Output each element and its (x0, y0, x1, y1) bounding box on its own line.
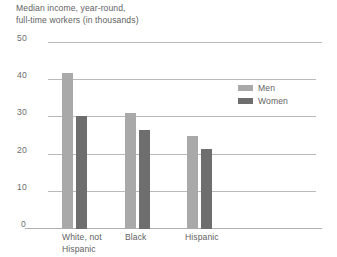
legend-swatch-women-icon (238, 98, 253, 104)
bar-women-hispanic (201, 149, 212, 229)
x-category-label-black: Black (125, 232, 147, 244)
legend-item-women: Women (238, 94, 288, 107)
bar-men-hispanic (187, 136, 198, 229)
legend-label-men: Men (258, 83, 275, 93)
bars-layer (0, 0, 337, 229)
bar-men-black (125, 113, 136, 229)
legend-item-men: Men (238, 81, 288, 94)
legend-label-women: Women (258, 96, 288, 106)
bar-women-white-not-hispanic (76, 116, 87, 229)
x-category-label-white-not-hispanic: White, notHispanic (62, 232, 102, 255)
bar-men-white-not-hispanic (62, 73, 73, 229)
chart-legend: Men Women (238, 81, 288, 107)
chart-plot-area: 50 40 30 20 10 0 White, notHispanic Blac… (0, 0, 337, 257)
x-category-label-hispanic: Hispanic (185, 232, 219, 244)
x-category-label-white-line-1: White, not (62, 232, 102, 242)
legend-swatch-men-icon (238, 85, 253, 91)
bar-women-black (139, 130, 150, 229)
x-category-label-white-line-2: Hispanic (62, 244, 96, 254)
